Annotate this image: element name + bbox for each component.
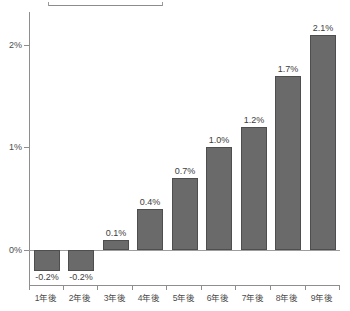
bar-value-label-5: 0.7% xyxy=(163,166,207,176)
title-box-left-cap xyxy=(48,2,49,6)
bar-3[interactable] xyxy=(103,240,129,250)
x-tick-1 xyxy=(63,285,64,290)
x-tick-5 xyxy=(201,285,202,290)
x-tick-0 xyxy=(29,285,30,290)
y-tick-2 xyxy=(24,45,29,46)
x-tick-2 xyxy=(97,285,98,290)
y-axis-line xyxy=(29,12,30,286)
title-box-right-cap xyxy=(162,2,163,6)
bar-7[interactable] xyxy=(241,127,267,250)
x-tick-7 xyxy=(270,285,271,290)
bar-value-label-2: -0.2% xyxy=(59,272,103,282)
bar-1[interactable] xyxy=(34,250,60,271)
y-tick-1 xyxy=(24,147,29,148)
bar-value-label-9: 2.1% xyxy=(301,23,345,33)
bar-value-label-7: 1.2% xyxy=(232,115,276,125)
bar-value-label-8: 1.7% xyxy=(266,64,310,74)
y-axis-label-1: 1% xyxy=(0,143,22,152)
bar-2[interactable] xyxy=(68,250,94,271)
x-tick-6 xyxy=(235,285,236,290)
x-axis-line xyxy=(29,285,340,286)
x-axis-label-8: 8年後 xyxy=(267,293,307,303)
y-tick-0 xyxy=(24,250,29,251)
x-axis-label-9: 9年後 xyxy=(302,293,342,303)
y-axis-label-0: 0% xyxy=(0,246,22,255)
bar-value-label-4: 0.4% xyxy=(128,197,172,207)
bar-9[interactable] xyxy=(310,35,336,250)
bar-8[interactable] xyxy=(275,76,301,250)
x-tick-8 xyxy=(305,285,306,290)
x-tick-4 xyxy=(166,285,167,290)
bar-value-label-3: 0.1% xyxy=(94,228,138,238)
y-axis-label-2: 2% xyxy=(0,41,22,50)
bar-4[interactable] xyxy=(137,209,163,250)
x-axis-label-6: 6年後 xyxy=(198,293,238,303)
title-box-rule xyxy=(48,5,163,6)
x-tick-9 xyxy=(339,285,340,290)
bar-5[interactable] xyxy=(172,178,198,250)
bar-chart: 2% 1% 0% 1年後 2年後 3年後 4年後 5年後 6年後 7年後 8年後… xyxy=(0,0,350,311)
bar-value-label-6: 1.0% xyxy=(197,135,241,145)
x-axis-label-2: 2年後 xyxy=(60,293,100,303)
x-tick-3 xyxy=(132,285,133,290)
bar-6[interactable] xyxy=(206,147,232,250)
x-axis-label-4: 4年後 xyxy=(129,293,169,303)
